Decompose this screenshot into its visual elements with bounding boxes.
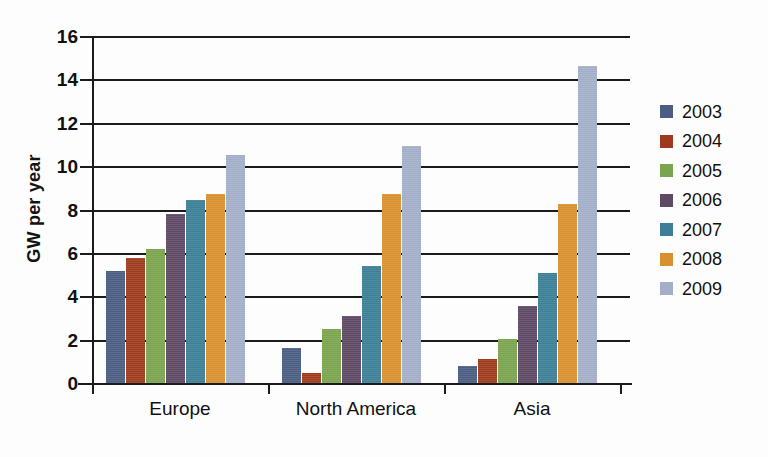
bar[interactable]	[362, 266, 381, 383]
legend-swatch-icon	[660, 164, 673, 177]
bar[interactable]	[106, 271, 125, 383]
y-tick-label: 8	[18, 201, 78, 220]
y-tick-label: 14	[18, 70, 78, 89]
x-category-label: Europe	[90, 398, 270, 420]
y-tick-label: 12	[18, 114, 78, 133]
y-tick-label: 16	[18, 27, 78, 46]
legend-swatch-icon	[660, 194, 673, 207]
legend-label: 2005	[682, 162, 722, 180]
y-tick-label: 2	[18, 331, 78, 350]
bar-group	[106, 36, 246, 383]
legend-item-2004[interactable]: 2004	[660, 134, 722, 149]
bar-group	[282, 36, 422, 383]
legend: 2003200420052006200720082009	[660, 104, 722, 296]
bar[interactable]	[206, 194, 225, 383]
bar[interactable]	[342, 316, 361, 383]
bar[interactable]	[382, 194, 401, 383]
legend-label: 2003	[682, 103, 722, 121]
legend-label: 2004	[682, 132, 722, 150]
legend-item-2007[interactable]: 2007	[660, 222, 722, 237]
bar[interactable]	[166, 214, 185, 383]
legend-item-2003[interactable]: 2003	[660, 104, 722, 119]
legend-swatch-icon	[660, 253, 673, 266]
legend-item-2009[interactable]: 2009	[660, 281, 722, 296]
bar-chart-figure: GW per year 0246810121416 EuropeNorth Am…	[0, 0, 768, 457]
x-category-label: Asia	[442, 398, 622, 420]
bar[interactable]	[538, 273, 557, 383]
y-tick-label: 0	[18, 374, 78, 393]
legend-label: 2009	[682, 280, 722, 298]
bar[interactable]	[402, 146, 421, 383]
bar[interactable]	[226, 155, 245, 383]
bar[interactable]	[146, 249, 165, 383]
legend-swatch-icon	[660, 223, 673, 236]
bar[interactable]	[302, 373, 321, 383]
bar[interactable]	[322, 329, 341, 383]
x-tick-mark	[268, 383, 270, 394]
bar[interactable]	[578, 66, 597, 383]
legend-swatch-icon	[660, 135, 673, 148]
bar-group	[458, 36, 598, 383]
legend-label: 2007	[682, 221, 722, 239]
legend-item-2006[interactable]: 2006	[660, 193, 722, 208]
bar[interactable]	[282, 348, 301, 383]
x-axis-line	[78, 383, 632, 385]
legend-label: 2008	[682, 250, 722, 268]
legend-swatch-icon	[660, 105, 673, 118]
legend-item-2005[interactable]: 2005	[660, 163, 722, 178]
legend-label: 2006	[682, 191, 722, 209]
x-tick-mark	[444, 383, 446, 394]
bar[interactable]	[478, 359, 497, 383]
x-tick-mark	[620, 383, 622, 394]
y-tick-label: 10	[18, 157, 78, 176]
legend-swatch-icon	[660, 282, 673, 295]
y-tick-label: 4	[18, 287, 78, 306]
bar[interactable]	[186, 200, 205, 383]
x-category-label: North America	[266, 398, 446, 420]
bar[interactable]	[126, 258, 145, 383]
legend-item-2008[interactable]: 2008	[660, 252, 722, 267]
bar[interactable]	[498, 339, 517, 383]
bar[interactable]	[458, 366, 477, 383]
bar[interactable]	[558, 204, 577, 383]
x-tick-mark	[92, 383, 94, 394]
bar[interactable]	[518, 306, 537, 383]
y-tick-label: 6	[18, 244, 78, 263]
plot-area	[92, 36, 630, 383]
